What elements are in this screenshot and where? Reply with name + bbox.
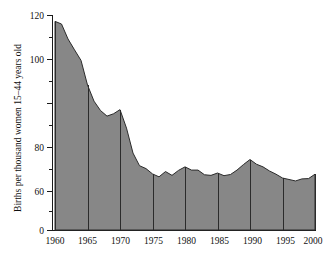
birth-rate-area-chart: Births per thousand women 15–44 years ol… (0, 0, 328, 260)
x-tick-label-1970: 1970 (111, 236, 130, 246)
x-tick-label-1965: 1965 (78, 236, 97, 246)
x-tick-label-2000: 2000 (304, 236, 323, 246)
figure: Births per thousand women 15–44 years ol… (0, 0, 328, 260)
x-tick-label-1990: 1990 (243, 236, 262, 246)
x-tick-label-1975: 1975 (144, 236, 163, 246)
y-tick-label-100: 100 (30, 55, 45, 65)
y-tick-label-80: 80 (35, 143, 45, 153)
x-axis-tick-labels: 1960 1965 1970 1975 1980 1985 1990 1995 … (46, 236, 323, 246)
y-axis-title: Births per thousand women 15–44 years ol… (13, 44, 23, 212)
y-tick-label-120: 120 (30, 11, 45, 21)
x-tick-label-1960: 1960 (46, 236, 65, 246)
x-tick-label-1980: 1980 (177, 236, 196, 246)
y-tick-label-0: 0 (39, 226, 44, 236)
x-tick-label-1985: 1985 (210, 236, 229, 246)
y-tick-label-60: 60 (35, 187, 45, 197)
x-tick-label-1995: 1995 (276, 236, 295, 246)
